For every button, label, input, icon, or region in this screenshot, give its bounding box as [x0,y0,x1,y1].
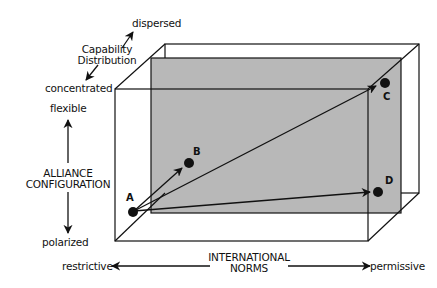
point-a-label: A [126,193,134,203]
alliance-title-line1: ALLIANCE [14,168,122,179]
norms-title-line1: INTERNATIONAL [200,252,298,263]
capability-low-label: concentrated [45,83,112,94]
point-c [380,78,390,88]
norms-title-line2: NORMS [200,263,298,274]
norms-low-label: restrictive [62,261,113,272]
point-b-label: B [193,147,201,157]
point-c-label: C [383,92,390,102]
norms-high-label: permissive [370,261,425,272]
alliance-high-label: flexible [50,103,86,114]
point-d-label: D [385,176,393,186]
shaded-plane [151,58,401,213]
capability-high-label: dispersed [132,18,181,29]
point-d [373,187,383,197]
alliance-title-line2: CONFIGURATION [14,179,122,190]
capability-title-line1: Capability [76,44,138,55]
alliance-low-label: polarized [42,237,89,248]
capability-title-line2: Distribution [76,55,138,66]
point-b [184,158,194,168]
point-a [128,207,138,217]
